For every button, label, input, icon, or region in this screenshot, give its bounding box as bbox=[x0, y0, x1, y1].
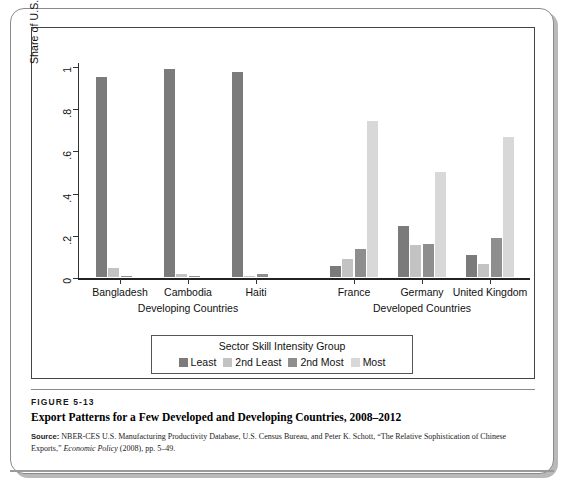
y-tick-label: .6 bbox=[61, 151, 73, 173]
bar bbox=[342, 259, 353, 277]
page-bottom-rule bbox=[10, 470, 554, 472]
bar bbox=[108, 268, 119, 277]
legend-swatch bbox=[351, 358, 360, 367]
x-tick-mark bbox=[490, 279, 491, 284]
y-tick-mark bbox=[73, 236, 78, 237]
figure-title: Export Patterns for a Few Developed and … bbox=[31, 411, 535, 423]
x-tick-mark bbox=[354, 279, 355, 284]
figure-page: Share of U.S. Imports by Sector 0.2.4.6.… bbox=[0, 0, 570, 492]
legend-label: Most bbox=[363, 356, 386, 368]
bar bbox=[189, 276, 200, 277]
y-axis-title: Share of U.S. Imports by Sector bbox=[28, 0, 40, 64]
legend-items: Least2nd Least2nd MostMost bbox=[158, 356, 406, 368]
legend-swatch bbox=[179, 358, 188, 367]
y-tick-mark bbox=[73, 109, 78, 110]
bar bbox=[435, 172, 446, 278]
figure-caption: FIGURE 5-13 Export Patterns for a Few De… bbox=[31, 389, 535, 454]
y-tick-label: .2 bbox=[61, 236, 73, 258]
legend-item: Least bbox=[179, 356, 217, 368]
bar bbox=[330, 266, 341, 277]
bar bbox=[398, 226, 409, 277]
x-category-label: France bbox=[338, 286, 371, 298]
bar bbox=[96, 77, 107, 277]
source-label: Source: bbox=[31, 432, 59, 441]
y-tick-label: .8 bbox=[61, 109, 73, 131]
x-tick-mark bbox=[120, 279, 121, 284]
legend-item: 2nd Most bbox=[288, 356, 343, 368]
legend-item: 2nd Least bbox=[223, 356, 281, 368]
x-category-label: Germany bbox=[400, 286, 443, 298]
bar bbox=[121, 276, 132, 277]
bar bbox=[466, 255, 477, 277]
y-tick-mark bbox=[73, 151, 78, 152]
x-tick-mark bbox=[422, 279, 423, 284]
bar bbox=[423, 244, 434, 277]
bar bbox=[232, 72, 243, 277]
x-tick-mark bbox=[256, 279, 257, 284]
plot-area: Share of U.S. Imports by Sector 0.2.4.6.… bbox=[32, 28, 534, 378]
y-tick-mark bbox=[73, 67, 78, 68]
legend-label: 2nd Least bbox=[235, 356, 281, 368]
source-text-part2: (2008), pp. 5–49. bbox=[118, 444, 175, 453]
legend: Sector Skill Intensity Group Least2nd Le… bbox=[151, 335, 413, 374]
x-group-label: Developed Countries bbox=[373, 302, 471, 314]
bar bbox=[176, 274, 187, 277]
legend-title: Sector Skill Intensity Group bbox=[158, 340, 406, 352]
y-tick-mark bbox=[73, 278, 78, 279]
bar bbox=[164, 69, 175, 277]
bar bbox=[244, 276, 255, 277]
caption-divider bbox=[31, 389, 535, 390]
y-axis-line bbox=[78, 63, 79, 278]
legend-label: Least bbox=[191, 356, 217, 368]
x-category-label: Bangladesh bbox=[92, 286, 147, 298]
x-axis-line bbox=[78, 278, 530, 280]
chart-frame: Share of U.S. Imports by Sector 0.2.4.6.… bbox=[31, 27, 535, 379]
legend-label: 2nd Most bbox=[300, 356, 343, 368]
x-tick-mark bbox=[188, 279, 189, 284]
y-tick-mark bbox=[73, 194, 78, 195]
y-tick-label: 0 bbox=[61, 278, 73, 300]
x-category-label: United Kingdom bbox=[453, 286, 528, 298]
bar bbox=[478, 264, 489, 277]
figure-source: Source: NBER-CES U.S. Manufacturing Prod… bbox=[31, 431, 535, 454]
legend-item: Most bbox=[351, 356, 386, 368]
figure-card: Share of U.S. Imports by Sector 0.2.4.6.… bbox=[10, 8, 554, 474]
legend-swatch bbox=[288, 358, 297, 367]
y-tick-label: .4 bbox=[61, 194, 73, 216]
x-category-label: Cambodia bbox=[164, 286, 212, 298]
figure-number: FIGURE 5-13 bbox=[31, 397, 535, 407]
source-journal: Economic Policy bbox=[63, 444, 117, 453]
bar bbox=[355, 249, 366, 277]
legend-swatch bbox=[223, 358, 232, 367]
bar bbox=[491, 238, 502, 277]
y-tick-label: 1 bbox=[61, 67, 73, 89]
bar bbox=[503, 137, 514, 277]
x-category-label: Haiti bbox=[245, 286, 266, 298]
bar bbox=[257, 274, 268, 277]
x-group-label: Developing Countries bbox=[138, 302, 238, 314]
bar bbox=[367, 121, 378, 277]
bar bbox=[410, 245, 421, 277]
